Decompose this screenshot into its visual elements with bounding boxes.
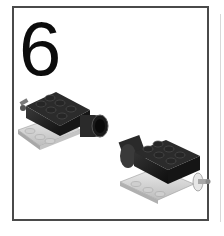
right-brick-assembly-illustration [114,132,212,204]
step-number: 6 [19,11,61,87]
page-edge-line [220,14,221,222]
left-brick-assembly-illustration [14,86,114,152]
